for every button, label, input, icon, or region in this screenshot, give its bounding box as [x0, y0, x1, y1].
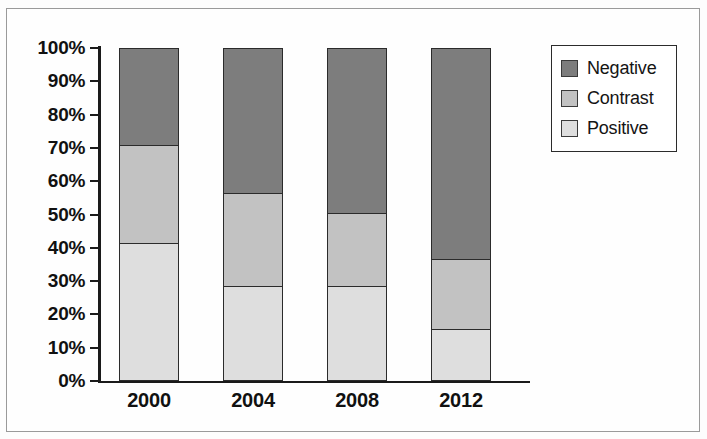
bar-2008[interactable] — [327, 48, 387, 381]
bar-2004[interactable] — [223, 48, 283, 381]
y-axis-tick-label: 100% — [11, 38, 85, 57]
y-axis-tick — [90, 247, 99, 249]
legend-swatch-contrast-icon — [561, 90, 578, 107]
y-axis-tick-label: 70% — [11, 138, 85, 157]
y-axis-tick — [90, 380, 99, 382]
bar-segment-contrast-2012[interactable] — [432, 259, 490, 330]
bar-2012[interactable] — [431, 48, 491, 381]
y-axis-tick — [90, 280, 99, 282]
bar-segment-contrast-2004[interactable] — [224, 193, 282, 287]
x-axis-label-2004: 2004 — [193, 389, 313, 411]
bar-segment-contrast-2000[interactable] — [120, 145, 178, 244]
y-axis-tick-label: 0% — [11, 371, 85, 390]
y-axis-tick — [90, 313, 99, 315]
chart-legend: NegativeContrastPositive — [551, 45, 677, 152]
legend-swatch-negative-icon — [561, 60, 578, 77]
legend-label-negative: Negative — [587, 59, 656, 77]
y-axis-tick — [90, 47, 99, 49]
bar-segment-positive-2008[interactable] — [328, 287, 386, 380]
legend-item-contrast[interactable]: Contrast — [561, 83, 668, 113]
chart-figure: 100%90%80%70%60%50%40%30%20%10%0% 200020… — [0, 0, 707, 439]
bar-segment-positive-2000[interactable] — [120, 244, 178, 380]
y-axis-tick-label: 10% — [11, 338, 85, 357]
legend-swatch-positive-icon — [561, 120, 578, 137]
bar-segment-positive-2012[interactable] — [432, 330, 490, 380]
legend-item-positive[interactable]: Positive — [561, 113, 668, 143]
legend-label-positive: Positive — [587, 119, 648, 137]
y-axis-tick — [90, 180, 99, 182]
legend-item-negative[interactable]: Negative — [561, 53, 668, 83]
y-axis-tick — [90, 80, 99, 82]
y-axis-tick-label: 40% — [11, 238, 85, 257]
y-axis-tick — [90, 347, 99, 349]
legend-label-contrast: Contrast — [587, 89, 653, 107]
y-axis-tick-label: 80% — [11, 105, 85, 124]
y-axis-tick-label: 30% — [11, 271, 85, 290]
bar-segment-positive-2004[interactable] — [224, 287, 282, 380]
bar-segment-negative-2008[interactable] — [328, 49, 386, 213]
y-axis-tick — [90, 147, 99, 149]
x-axis-label-2012: 2012 — [401, 389, 521, 411]
bar-segment-negative-2004[interactable] — [224, 49, 282, 193]
y-axis-tick-label: 20% — [11, 304, 85, 323]
bar-segment-contrast-2008[interactable] — [328, 213, 386, 287]
bar-segment-negative-2012[interactable] — [432, 49, 490, 259]
plot-area: 100%90%80%70%60%50%40%30%20%10%0% 200020… — [0, 0, 707, 439]
y-axis-tick-label: 90% — [11, 71, 85, 90]
y-axis-tick-label: 60% — [11, 171, 85, 190]
bar-segment-negative-2000[interactable] — [120, 49, 178, 145]
x-axis-label-2008: 2008 — [297, 389, 417, 411]
bar-2000[interactable] — [119, 48, 179, 381]
y-axis-tick-label: 50% — [11, 205, 85, 224]
y-axis-tick — [90, 214, 99, 216]
y-axis-tick — [90, 114, 99, 116]
x-axis-label-2000: 2000 — [89, 389, 209, 411]
